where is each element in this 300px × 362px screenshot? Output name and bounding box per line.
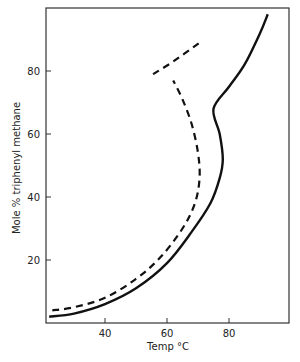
y-axis-title: Mole % triphenyl methane bbox=[11, 102, 22, 234]
dashed-curve bbox=[52, 80, 199, 310]
curves bbox=[49, 14, 268, 316]
solid-curve bbox=[49, 14, 268, 316]
x-tick-label: 40 bbox=[99, 328, 112, 339]
y-tick-label: 40 bbox=[27, 192, 40, 203]
plot-frame bbox=[46, 8, 289, 323]
dashed-curve bbox=[153, 43, 200, 75]
y-tick-label: 80 bbox=[27, 66, 40, 77]
y-tick-label: 60 bbox=[27, 129, 40, 140]
chart: 40608020406080 Temp °C Mole % triphenyl … bbox=[0, 0, 300, 362]
x-tick-label: 80 bbox=[223, 328, 236, 339]
y-tick-label: 20 bbox=[27, 255, 40, 266]
x-axis-title: Temp °C bbox=[146, 341, 189, 352]
x-tick-label: 60 bbox=[161, 328, 174, 339]
axis-ticks: 40608020406080 bbox=[27, 66, 235, 339]
